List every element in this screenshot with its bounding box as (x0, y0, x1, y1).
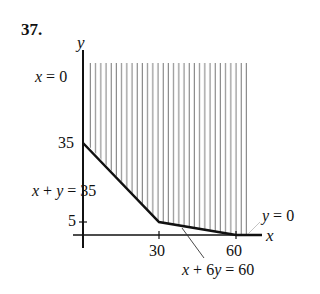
hatched-region (86, 63, 250, 235)
leader-x6y (182, 228, 204, 258)
tick-35-label: 35 (58, 135, 74, 151)
y-eq-0-label: y = 0 (262, 208, 294, 224)
x-plus-6y-label: x + 6y = 60 (182, 262, 254, 278)
x-axis-label: x (266, 227, 274, 244)
tick-5-label: 5 (68, 213, 76, 229)
tick-60-label: 60 (226, 243, 242, 259)
x-plus-y-label: x + y = 35 (32, 183, 96, 199)
tick-30-label: 30 (149, 243, 165, 259)
x-eq-0-label: x = 0 (35, 69, 67, 85)
y-axis-label: y (77, 34, 85, 51)
